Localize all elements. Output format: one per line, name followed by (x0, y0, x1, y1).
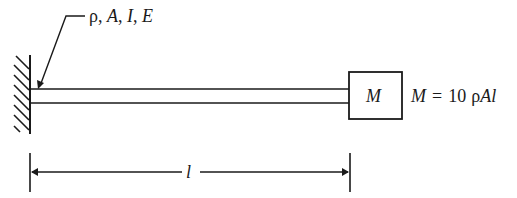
arrowhead-icon (37, 80, 44, 89)
fixed-wall-support (14, 55, 30, 134)
beam-properties-label: ρ, A, I, E (89, 6, 153, 26)
right-arrowhead-icon (342, 168, 349, 176)
length-label: l (186, 162, 191, 182)
left-arrowhead-icon (31, 168, 38, 176)
beam-diagram: ρ, A, I, E M M=10ρAl l (0, 0, 517, 198)
tip-mass-label: M (365, 86, 382, 106)
property-leader-arrow (37, 16, 85, 89)
wall-hatching (14, 56, 29, 132)
beam (30, 89, 349, 103)
mass-equation: M=10ρAl (410, 86, 496, 106)
